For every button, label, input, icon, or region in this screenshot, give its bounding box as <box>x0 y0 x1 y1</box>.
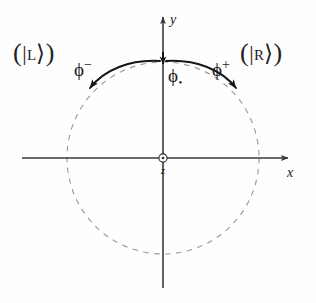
phi-plus-symbol: ϕ <box>212 59 222 80</box>
left-ket-letter: L <box>27 47 36 63</box>
phi-plus-label: ϕ+ <box>212 58 230 79</box>
left-ket-open-paren: ( <box>13 38 22 67</box>
phi-zero-subscript: • <box>178 76 182 88</box>
right-ket-open-paren: ( <box>240 38 249 67</box>
right-ket-letter: R <box>254 47 264 63</box>
phi-minus-superscript: − <box>84 57 92 72</box>
phi-zero-label: ϕ• <box>168 66 182 88</box>
right-ket-angle: ⟩ <box>264 41 274 66</box>
phi-plus-superscript: + <box>222 57 230 72</box>
left-ket-angle: ⟩ <box>36 41 46 66</box>
phi-zero-symbol: ϕ <box>168 65 178 86</box>
right-ket-close-paren: ) <box>274 38 283 67</box>
left-ket-close-paren: ) <box>46 38 55 67</box>
left-state-ket-label: (|L⟩) <box>13 40 55 66</box>
phi-minus-label: ϕ− <box>74 58 92 79</box>
y-axis-label: y <box>170 13 176 27</box>
phi-minus-curved-arrow <box>90 61 160 88</box>
origin-dot-icon <box>162 157 165 160</box>
z-origin-label: z <box>161 166 165 176</box>
x-axis-label: x <box>287 166 293 180</box>
right-state-ket-label: (|R⟩) <box>240 40 283 66</box>
phi-minus-symbol: ϕ <box>74 59 84 80</box>
physics-diagram-canvas: (|L⟩) (|R⟩) ϕ− ϕ+ ϕ• y x z <box>0 0 316 303</box>
